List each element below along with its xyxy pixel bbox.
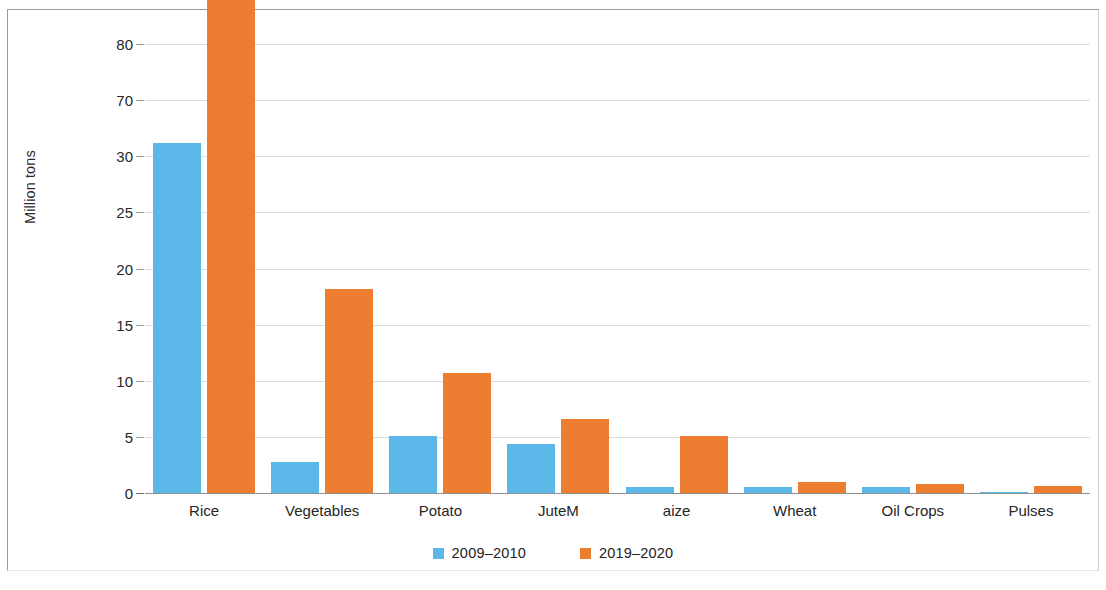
x-axis-category-label: Wheat xyxy=(773,502,816,519)
bar[interactable] xyxy=(798,482,846,493)
x-axis-category-label: JuteM xyxy=(538,502,579,519)
chart-legend: 2009–20102019–2020 xyxy=(0,545,1106,561)
y-axis-tick-label: 70 xyxy=(89,92,133,109)
bar-group xyxy=(145,44,263,493)
bar-group xyxy=(618,44,736,493)
y-axis-tick-label: 20 xyxy=(89,260,133,277)
bar[interactable] xyxy=(744,487,792,493)
bar[interactable] xyxy=(443,373,491,493)
bar[interactable] xyxy=(916,484,964,493)
x-axis-category-label: Vegetables xyxy=(285,502,359,519)
bar-group xyxy=(854,44,972,493)
blue-square-swatch xyxy=(433,548,444,559)
bar-group xyxy=(972,44,1090,493)
y-axis-tick xyxy=(136,44,144,45)
x-axis-line xyxy=(145,493,1090,494)
y-axis-tick xyxy=(136,325,144,326)
plot-area xyxy=(145,44,1090,493)
y-axis-tick xyxy=(136,269,144,270)
y-axis-title: Million tons xyxy=(22,84,44,224)
bar[interactable] xyxy=(680,436,728,493)
bar-group xyxy=(736,44,854,493)
x-axis-category-label: aize xyxy=(663,502,691,519)
bar[interactable] xyxy=(153,143,201,493)
y-axis-tick-label: 15 xyxy=(89,316,133,333)
y-axis-tick-labels: 8070302520151050 xyxy=(85,44,133,493)
bar[interactable] xyxy=(1034,486,1082,493)
legend-label: 2019–2020 xyxy=(599,545,673,561)
x-axis-category-labels: RiceVegetablesPotatoJuteMaizeWheatOil Cr… xyxy=(145,502,1090,526)
y-axis-tick xyxy=(136,493,144,494)
y-axis-tick-label: 10 xyxy=(89,372,133,389)
orange-square-swatch xyxy=(580,548,591,559)
bar[interactable] xyxy=(626,487,674,493)
y-axis-tick-label: 5 xyxy=(89,428,133,445)
bar[interactable] xyxy=(271,462,319,493)
y-axis-tick xyxy=(136,100,144,101)
bar-group xyxy=(263,44,381,493)
bar[interactable] xyxy=(325,289,373,493)
bar[interactable] xyxy=(507,444,555,493)
y-axis-tick-label: 80 xyxy=(89,36,133,53)
bar[interactable] xyxy=(862,487,910,493)
bar[interactable] xyxy=(389,436,437,493)
legend-label: 2009–2010 xyxy=(452,545,526,561)
x-axis-category-label: Potato xyxy=(419,502,462,519)
y-axis-tick-label: 25 xyxy=(89,204,133,221)
bar[interactable] xyxy=(207,0,255,493)
bar[interactable] xyxy=(980,492,1028,493)
x-axis-category-label: Rice xyxy=(189,502,219,519)
bar-group xyxy=(499,44,617,493)
y-axis-tick xyxy=(136,156,144,157)
bar-group xyxy=(381,44,499,493)
y-axis-tick-label: 0 xyxy=(89,485,133,502)
y-axis-tick xyxy=(136,437,144,438)
bar[interactable] xyxy=(561,419,609,493)
legend-item[interactable]: 2019–2020 xyxy=(580,545,673,561)
chart-page: Million tons 8070302520151050 RiceVegeta… xyxy=(0,0,1106,590)
y-axis-tick xyxy=(136,212,144,213)
x-axis-category-label: Pulses xyxy=(1008,502,1053,519)
x-axis-category-label: Oil Crops xyxy=(882,502,945,519)
legend-item[interactable]: 2009–2010 xyxy=(433,545,526,561)
y-axis-tick xyxy=(136,381,144,382)
y-axis-tick-label: 30 xyxy=(89,148,133,165)
